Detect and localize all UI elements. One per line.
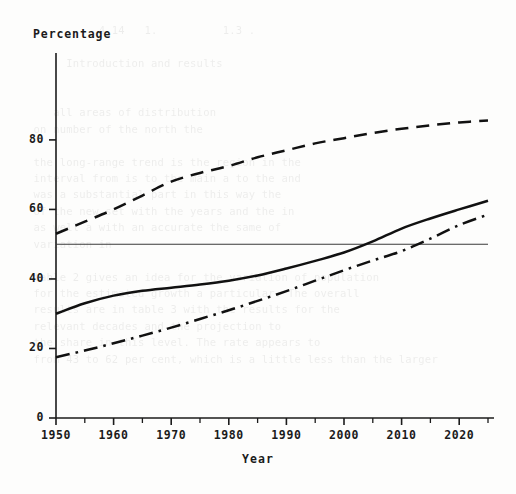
chart-axes	[49, 53, 494, 425]
dashed-series	[56, 120, 488, 233]
y-tick-label: 40	[12, 271, 44, 285]
solid-series	[56, 201, 488, 314]
y-axis-major-ticks	[49, 140, 56, 418]
chart-page: 4.14 1. 1.3 . Introduction and results	[0, 0, 516, 494]
x-axis-title: Year	[0, 452, 516, 466]
line-chart	[0, 0, 516, 494]
y-axis-title: Percentage	[33, 27, 111, 41]
y-tick-label: 0	[12, 410, 44, 424]
y-tick-label: 20	[12, 340, 44, 354]
y-tick-label: 80	[12, 132, 44, 146]
data-series-group	[56, 120, 488, 357]
y-tick-label: 60	[12, 201, 44, 215]
dash-dot-series	[56, 215, 488, 358]
x-tick-label: 2020	[424, 428, 494, 442]
